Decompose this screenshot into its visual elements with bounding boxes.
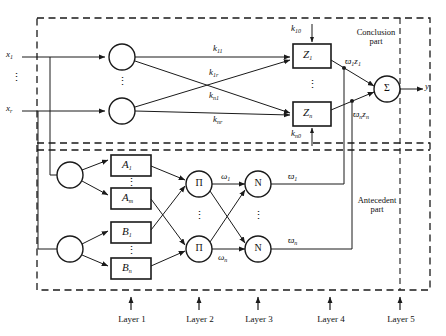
edge-prodn-to-N1	[210, 190, 245, 242]
bias-kn0: kn0	[291, 129, 301, 139]
output-y-label: y	[425, 82, 429, 91]
antecedent-node-bottom	[57, 236, 83, 262]
membership-A-ellipsis: ⋮	[125, 177, 137, 188]
edge-prod1-to-Nn	[210, 191, 245, 243]
conclusion-node-bottom	[109, 98, 135, 124]
weight-k1r: k1r	[209, 68, 218, 78]
weighted-tap-dot-n	[350, 99, 354, 103]
layer-label-1: Layer 1	[111, 315, 153, 324]
input-xr: xr	[6, 104, 12, 114]
diagram-canvas: x1 xr ⋮ ⋮ k11 k1r kn1 knr k10 kn0 Z1 Zn …	[0, 0, 446, 336]
edge-Am-to-prodn	[151, 199, 185, 245]
conclusion-node-ellipsis: ⋮	[116, 76, 128, 87]
weight-knr: knr	[213, 115, 222, 125]
membership-Am-label: Am	[122, 192, 133, 204]
antecedent-part-label: Antecedent part	[346, 196, 408, 213]
product-node-n-label: Π	[192, 243, 206, 253]
membership-B-ellipsis: ⋮	[125, 245, 137, 256]
edge-node-to-A1	[82, 160, 108, 170]
layer-label-2: Layer 2	[179, 315, 221, 324]
membership-A1-label: A1	[122, 159, 132, 171]
z-node-n-label: Zn	[303, 107, 312, 119]
edge-node-to-B1	[82, 231, 108, 244]
conclusion-part-label: Conclusion part	[346, 28, 406, 45]
weighted-output-n: ϖnzn	[353, 110, 369, 120]
conclusion-node-top	[109, 44, 135, 70]
z-node-ellipsis: ⋮	[306, 79, 318, 90]
membership-Bn-label: Bn	[122, 262, 132, 274]
edge-node-to-Am	[82, 181, 108, 195]
weight-k11: k11	[213, 44, 223, 54]
weighted-output-1: ϖ1z1	[345, 57, 361, 67]
sum-node-label: Σ	[380, 83, 394, 93]
weight-kn1: kn1	[209, 91, 219, 101]
normalize-node-ellipsis: ⋮	[252, 210, 264, 221]
omega-bar-n-label: ϖn	[288, 236, 297, 246]
omega-bar-1-label: ϖ1	[288, 172, 297, 182]
antecedent-node-top	[57, 162, 83, 188]
layer-label-4: Layer 4	[310, 315, 352, 324]
z-node-1-label: Z1	[303, 49, 312, 61]
edge-A1-to-prod1	[151, 166, 185, 180]
edge-node-to-Bn	[82, 255, 108, 266]
edge-Bn-to-prodn	[151, 251, 185, 266]
bias-k10: k10	[291, 24, 301, 34]
input-x1: x1	[6, 50, 13, 60]
diagram-vector-layer	[0, 0, 446, 336]
normalize-node-1-label: N	[251, 178, 265, 188]
input-ellipsis: ⋮	[10, 72, 22, 83]
edge-B1-to-prod1	[151, 186, 185, 230]
layer-label-5: Layer 5	[380, 315, 422, 324]
layer-label-3: Layer 3	[238, 315, 280, 324]
product-node-1-label: Π	[192, 178, 206, 188]
normalize-node-n-label: N	[251, 243, 265, 253]
membership-B1-label: B1	[122, 226, 132, 238]
product-node-ellipsis: ⋮	[193, 210, 205, 221]
omega-n-label: ωn	[218, 253, 227, 263]
omega-1-label: ω1	[221, 172, 230, 182]
